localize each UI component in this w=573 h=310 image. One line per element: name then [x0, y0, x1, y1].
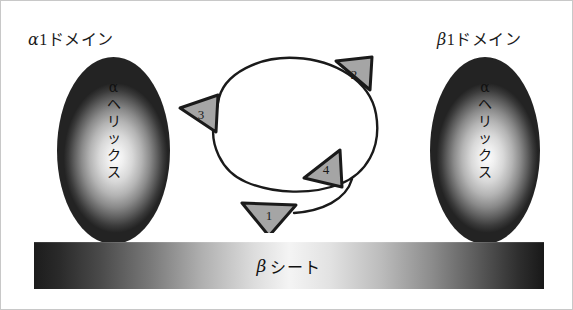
- alpha1-helix-line-0: α: [57, 79, 170, 96]
- anchor-triangle-2-number: 2: [351, 67, 358, 82]
- alpha1-domain-label-rest: 1ドメイン: [39, 31, 114, 48]
- alpha1-helix-text: α ヘ リ ッ ク ス: [57, 79, 170, 181]
- alpha1-helix-line-5: ス: [57, 164, 170, 181]
- beta1-helix-line-2: リ: [430, 113, 540, 130]
- beta-sheet-label-greek: β: [257, 256, 268, 276]
- anchor-triangle-4-number: 4: [323, 162, 330, 177]
- alpha1-domain-label: α1ドメイン: [28, 26, 114, 50]
- beta1-helix-text: α ヘ リ ッ ク ス: [430, 79, 540, 181]
- beta1-helix-line-0: α: [430, 79, 540, 96]
- anchor-triangle-1: 1: [242, 203, 296, 233]
- protein-domain-diagram: α1ドメイン β1ドメイン α ヘ リ ッ ク ス α ヘ リ ッ ク ス: [0, 0, 573, 310]
- beta1-domain-label: β1ドメイン: [437, 26, 521, 50]
- anchor-triangle-3: 3: [180, 95, 218, 132]
- alpha1-helix-line-2: リ: [57, 113, 170, 130]
- beta-sheet-label-rest: シート: [270, 254, 321, 278]
- beta1-helix-line-5: ス: [430, 164, 540, 181]
- peptide-loop-diagram: 2 3 4 1: [170, 48, 400, 233]
- beta1-helix-line-1: ヘ: [430, 96, 540, 113]
- anchor-triangle-3-number: 3: [198, 107, 205, 122]
- alpha1-helix-ellipse: α ヘ リ ッ ク ス: [57, 57, 170, 244]
- alpha1-helix-line-4: ク: [57, 147, 170, 164]
- anchor-triangle-1-number: 1: [266, 208, 273, 223]
- alpha1-helix-line-1: ヘ: [57, 96, 170, 113]
- beta-sheet-label: βシート: [34, 242, 544, 289]
- alpha1-helix-line-3: ッ: [57, 130, 170, 147]
- beta-sheet-bar: βシート: [34, 242, 544, 289]
- beta1-domain-label-rest: 1ドメイン: [447, 31, 522, 48]
- beta1-helix-ellipse: α ヘ リ ッ ク ス: [430, 57, 540, 244]
- beta1-helix-line-4: ク: [430, 147, 540, 164]
- beta1-helix-line-3: ッ: [430, 130, 540, 147]
- beta1-domain-label-greek: β: [437, 30, 447, 49]
- alpha1-domain-label-greek: α: [28, 30, 39, 49]
